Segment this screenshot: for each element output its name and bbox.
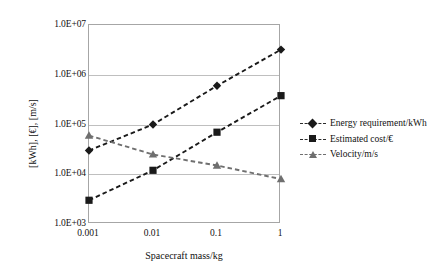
legend-key-square bbox=[300, 133, 326, 145]
legend-item-energy: Energy requirement/kWh bbox=[300, 116, 427, 132]
legend-label: Energy requirement/kWh bbox=[330, 116, 427, 132]
series-plot bbox=[89, 25, 281, 224]
y-tick-label: 1.0E+04 bbox=[6, 168, 86, 178]
diamond-marker-icon bbox=[308, 118, 318, 128]
series-line-triangle bbox=[89, 136, 281, 180]
square-marker-icon bbox=[85, 197, 92, 204]
diamond-marker-icon bbox=[277, 45, 285, 53]
legend-label: Velocity/m/s bbox=[330, 147, 378, 163]
legend-key-triangle bbox=[300, 149, 326, 161]
triangle-marker-icon bbox=[309, 151, 317, 158]
series-line-diamond bbox=[89, 50, 281, 151]
x-tick-label: 0.001 bbox=[58, 228, 118, 238]
chart-legend: Energy requirement/kWh Estimated cost/€ … bbox=[300, 116, 427, 163]
plot-area bbox=[88, 24, 280, 223]
diamond-marker-icon bbox=[149, 120, 157, 128]
square-marker-icon bbox=[213, 129, 220, 136]
x-tick-label: 0.01 bbox=[122, 228, 182, 238]
x-axis-title: Spacecraft mass/kg bbox=[88, 250, 280, 261]
legend-item-cost: Estimated cost/€ bbox=[300, 132, 427, 148]
x-tick-label: 1 bbox=[250, 228, 310, 238]
triangle-marker-icon bbox=[277, 175, 285, 182]
chart-container: [kWh], [€], [m/s] 1.0E+07 1.0E+06 1.0E+0… bbox=[0, 0, 436, 277]
square-marker-icon bbox=[277, 92, 284, 99]
y-tick-label: 1.0E+05 bbox=[6, 119, 86, 129]
diamond-marker-icon bbox=[213, 82, 221, 90]
diamond-marker-icon bbox=[85, 146, 93, 154]
legend-key-diamond bbox=[300, 118, 326, 130]
y-tick-label: 1.0E+07 bbox=[6, 19, 86, 29]
x-tick-label: 0.1 bbox=[186, 228, 246, 238]
triangle-marker-icon bbox=[85, 131, 93, 138]
square-marker-icon bbox=[149, 167, 156, 174]
y-tick-label: 1.0E+06 bbox=[6, 69, 86, 79]
legend-item-velocity: Velocity/m/s bbox=[300, 147, 427, 163]
series-line-square bbox=[89, 96, 281, 201]
y-tick-label: 1.0E+03 bbox=[6, 218, 86, 228]
legend-label: Estimated cost/€ bbox=[330, 132, 393, 148]
square-marker-icon bbox=[309, 135, 316, 142]
